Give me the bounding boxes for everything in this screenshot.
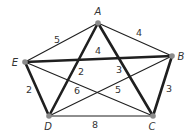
edge-e-b: [25, 56, 172, 62]
edge-weight-a-e: 5: [54, 34, 60, 45]
vertex-a: [95, 20, 101, 26]
weighted-graph: 5442326538 ABCDE: [0, 0, 192, 140]
edge-weight-e-b: 4: [95, 45, 101, 56]
edge-weight-d-b: 5: [115, 84, 121, 95]
edge-weight-e-d: 2: [26, 84, 32, 95]
edge-weight-a-c: 3: [116, 64, 122, 75]
vertex-d: [46, 113, 52, 119]
edge-weight-d-c: 8: [92, 119, 98, 130]
vertex-c: [150, 113, 156, 119]
vertices-layer: ABCDE: [12, 6, 185, 132]
vertex-label-c: C: [149, 121, 156, 132]
edge-weight-a-b: 4: [136, 27, 142, 38]
edge-weight-b-c: 3: [166, 83, 172, 94]
vertex-label-b: B: [178, 51, 185, 62]
vertex-label-a: A: [94, 6, 102, 17]
vertex-label-e: E: [12, 57, 19, 68]
edge-d-b: [49, 56, 172, 116]
vertex-b: [169, 53, 175, 59]
vertex-label-d: D: [44, 121, 52, 132]
edge-weight-e-c: 6: [74, 85, 80, 96]
vertex-e: [22, 59, 28, 65]
edges-layer: [25, 23, 172, 116]
edge-weight-a-d: 2: [78, 66, 84, 77]
